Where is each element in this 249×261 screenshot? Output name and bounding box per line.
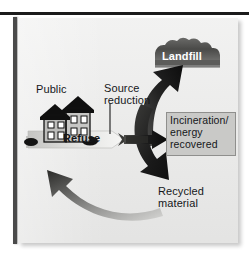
recycled-material-arrow: [47, 170, 163, 221]
label-public: Public: [36, 83, 67, 95]
label-source-reduction: Source reduction: [104, 82, 150, 107]
label-incineration: Incineration/ energy recovered: [170, 115, 229, 150]
label-refuse: Refuse: [63, 132, 100, 144]
label-recycled: Recycled material: [158, 185, 204, 210]
label-landfill: Landfill: [162, 50, 202, 62]
waste-flow-figure: Public Source reduction Refuse Landfill …: [0, 0, 249, 261]
